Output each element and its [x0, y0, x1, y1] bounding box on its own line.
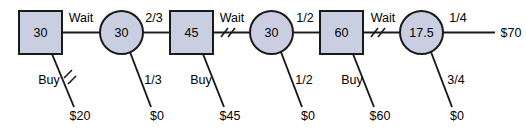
node-value-c2: 30 — [265, 27, 279, 40]
node-value-d2: 45 — [185, 27, 199, 40]
edge-label-prob-1-4: 1/4 — [449, 12, 466, 25]
edge-label-buy-1: Buy — [38, 74, 60, 87]
node-value-c1: 30 — [115, 27, 129, 40]
edge-label-prob-3-4: 3/4 — [447, 74, 464, 87]
prune-mark-d1-b — [68, 76, 76, 84]
terminal-payoff-6: $0 — [450, 110, 464, 123]
edge-label-wait-3: Wait — [371, 12, 396, 25]
edge-label-buy-3: Buy — [341, 74, 363, 87]
terminal-payoff-3: $45 — [220, 110, 241, 123]
terminal-payoff-2: $0 — [150, 110, 164, 123]
edge-label-prob-1-3: 1/3 — [144, 74, 161, 87]
edge-label-buy-2: Buy — [190, 74, 212, 87]
decision-tree-diagram: 30 30 45 30 60 17.5 Wait 2/3 Wait 1/2 Wa… — [0, 0, 526, 135]
prune-mark-d1-a — [64, 70, 72, 78]
edge-label-prob-2-3: 2/3 — [145, 12, 162, 25]
edge-label-wait-2: Wait — [220, 12, 245, 25]
node-value-c3: 17.5 — [409, 27, 433, 40]
node-value-d3: 60 — [335, 27, 349, 40]
edge-label-prob-1-2-b: 1/2 — [295, 74, 312, 87]
diagonal-edges — [52, 52, 452, 107]
terminal-payoff-4: $0 — [301, 110, 315, 123]
edge-label-wait-1: Wait — [69, 12, 94, 25]
terminal-payoff-7: $70 — [501, 27, 522, 40]
terminal-payoff-1: $20 — [70, 110, 91, 123]
node-value-d1: 30 — [34, 27, 48, 40]
terminal-payoff-5: $60 — [370, 110, 391, 123]
edge-label-prob-1-2-a: 1/2 — [296, 12, 313, 25]
